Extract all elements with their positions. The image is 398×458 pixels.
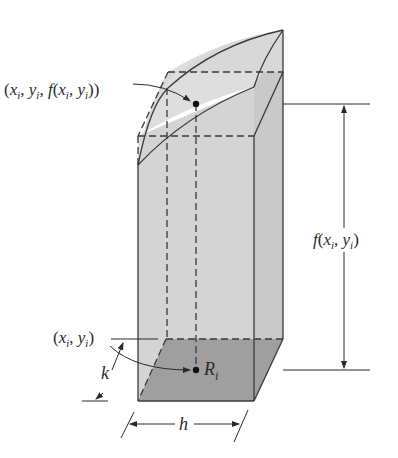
depth-label: k <box>101 363 110 383</box>
width-left-tick <box>121 412 134 438</box>
base-point-dot <box>193 367 199 373</box>
surface-point-label: (xi, yi, f(xi, yi)) <box>4 80 99 101</box>
width-right-tick <box>234 410 248 442</box>
base-point-label: (xi, yi) <box>53 328 94 349</box>
prism-diagram: (xi, yi, f(xi, yi)) f(xi, yi) (xi, yi) R… <box>0 0 398 458</box>
surface-point-dot <box>193 101 199 107</box>
depth-arrow-down <box>96 393 103 399</box>
width-label: h <box>179 414 188 434</box>
depth-arrow-up <box>112 343 123 370</box>
